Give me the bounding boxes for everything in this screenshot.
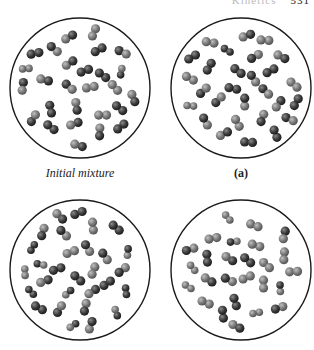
molecule [218, 306, 228, 323]
molecule [36, 74, 53, 85]
caption-a: (a) [221, 166, 261, 181]
molecule [221, 252, 237, 265]
molecule [52, 209, 67, 224]
molecule [256, 35, 273, 45]
molecule [221, 45, 234, 56]
molecule [88, 218, 98, 235]
molecule [246, 219, 263, 231]
molecule [63, 246, 80, 258]
molecule [18, 78, 28, 95]
molecule [87, 262, 99, 279]
molecule [111, 306, 121, 320]
molecule [88, 24, 100, 40]
molecule [262, 64, 278, 77]
molecule [259, 258, 274, 272]
molecule [117, 65, 126, 79]
molecule [115, 46, 131, 59]
molecule [272, 96, 286, 111]
molecule [221, 274, 237, 287]
molecule [19, 65, 33, 73]
molecule [203, 59, 216, 75]
molecule [108, 80, 123, 95]
molecule [240, 94, 249, 111]
molecule [122, 284, 130, 298]
molecule [240, 253, 255, 267]
molecule [94, 110, 111, 119]
molecule [62, 56, 78, 70]
molecule [204, 233, 221, 244]
molecule [182, 281, 195, 292]
molecule [62, 80, 77, 94]
molecule [49, 263, 66, 275]
molecule [47, 42, 62, 56]
molecule [70, 271, 85, 285]
panel-b [10, 200, 150, 340]
molecule [240, 137, 257, 147]
molecule [81, 240, 94, 256]
molecule [34, 260, 48, 269]
molecule [248, 240, 265, 252]
molecule [229, 294, 240, 311]
molecule [196, 83, 211, 98]
molecule [184, 50, 200, 63]
molecule [228, 320, 244, 333]
molecule [247, 50, 263, 63]
molecule [127, 90, 139, 106]
molecule [182, 72, 198, 85]
molecule [247, 71, 260, 87]
molecule [199, 113, 212, 129]
molecule [124, 245, 132, 259]
molecule [77, 65, 94, 77]
molecule [249, 308, 263, 317]
molecule [82, 82, 99, 93]
molecule [238, 271, 254, 283]
molecule [239, 30, 256, 42]
molecule [61, 30, 77, 43]
molecule [53, 301, 66, 317]
molecule [279, 247, 289, 264]
molecule [270, 125, 282, 142]
molecule [227, 237, 241, 245]
molecule [70, 140, 87, 152]
molecule [271, 302, 288, 314]
caption-initial-mixture: Initial mixture [30, 166, 130, 181]
molecule [187, 262, 199, 275]
molecule [95, 123, 104, 140]
molecule [98, 249, 112, 265]
molecule [273, 50, 289, 63]
molecule [211, 92, 226, 107]
molecule [286, 78, 301, 92]
molecule [222, 211, 234, 224]
molecule [66, 320, 79, 331]
molecule [31, 301, 47, 314]
molecule [201, 273, 217, 286]
molecule [290, 94, 303, 110]
molecule [285, 267, 302, 277]
container-circle [10, 18, 150, 158]
molecule [202, 250, 212, 267]
molecule [112, 101, 127, 115]
panel-initial [10, 18, 150, 158]
molecule [109, 221, 124, 235]
molecule [95, 68, 111, 82]
molecule [224, 83, 241, 94]
molecule [56, 226, 71, 241]
molecule [45, 101, 56, 118]
molecule [84, 285, 100, 298]
molecule [85, 317, 97, 334]
molecule [80, 299, 91, 316]
molecule [182, 244, 199, 256]
molecule [27, 110, 40, 126]
molecule [258, 84, 273, 99]
molecule [259, 276, 268, 293]
molecule [279, 227, 290, 244]
molecule [27, 241, 38, 254]
molecule [71, 98, 82, 115]
molecule [37, 224, 49, 241]
molecule [27, 48, 44, 59]
molecule [99, 276, 115, 290]
molecule [70, 207, 86, 219]
molecule [66, 118, 83, 130]
molecule [183, 102, 197, 110]
molecule [115, 263, 130, 277]
